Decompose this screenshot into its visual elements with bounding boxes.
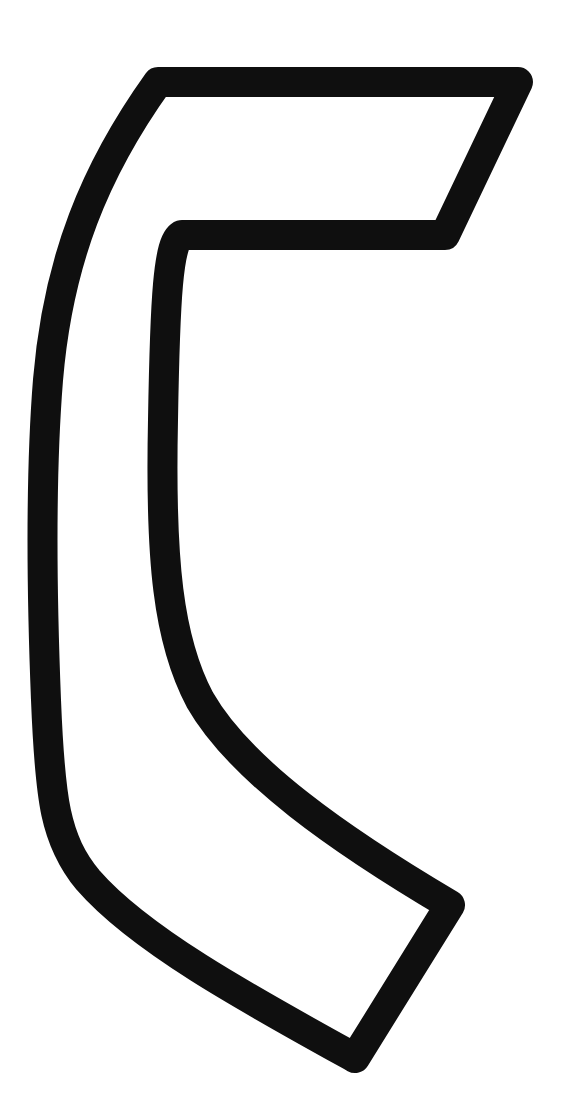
outline-shape-drawing xyxy=(0,0,565,1098)
c-bracket-outline-icon xyxy=(43,82,519,1058)
